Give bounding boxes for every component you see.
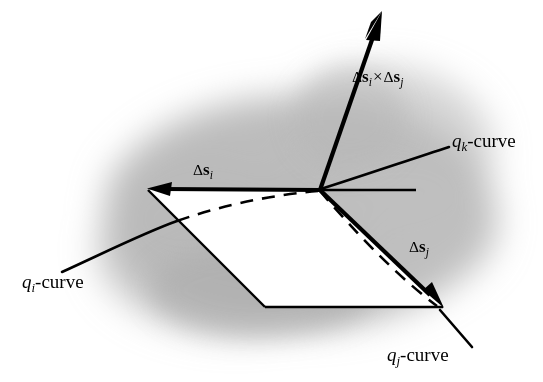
ds-j-delta: Δ — [409, 238, 419, 255]
diagram-canvas — [0, 0, 543, 382]
ds-j-vector: s — [419, 237, 426, 256]
qk-suffix: -curve — [467, 130, 516, 151]
cross-delta-second: Δ — [384, 68, 394, 85]
qk-curve-label: qk-curve — [452, 131, 516, 154]
delta-s-j-label: Δsj — [409, 238, 429, 258]
ds-i-subscript: i — [210, 169, 213, 182]
ds-i-delta: Δ — [193, 161, 203, 178]
qk-symbol: q — [452, 130, 462, 151]
qj-curve-label: qj-curve — [387, 345, 449, 368]
qj-symbol: q — [387, 344, 397, 365]
cross-operator: × — [372, 67, 384, 86]
qj-suffix: -curve — [400, 344, 449, 365]
cross-vector-first: s — [362, 67, 369, 86]
normal-vector-arrowhead — [366, 11, 382, 41]
qi-curve-label: qi-curve — [22, 272, 84, 295]
qi-suffix: -curve — [35, 271, 84, 292]
cross-sub-second: j — [400, 76, 403, 89]
ds-i-vector: s — [203, 160, 210, 179]
cross-delta-first: Δ — [352, 68, 362, 85]
ds-j-subscript: j — [426, 246, 429, 259]
qj-coordinate-curve-solid — [440, 310, 472, 347]
figure-root: Δsi×Δsj qk-curve Δsi Δsj qi-curve qj-cur… — [0, 0, 543, 382]
cross-product-label: Δsi×Δsj — [352, 68, 403, 88]
qi-symbol: q — [22, 271, 32, 292]
delta-s-i-label: Δsi — [193, 161, 213, 181]
